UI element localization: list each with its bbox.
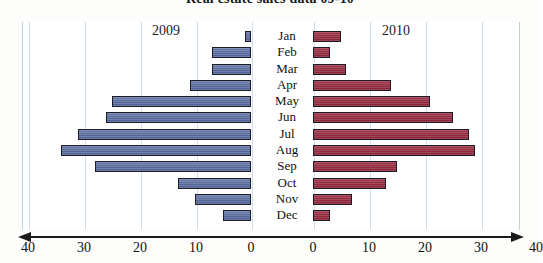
bar-2010 (313, 161, 397, 172)
bar-row: Jan (0, 30, 540, 45)
month-label: Apr (265, 77, 309, 92)
bar-row: Nov (0, 193, 540, 208)
axis-tick: 0 (310, 240, 317, 256)
axis-tick: 10 (189, 240, 203, 256)
bar-2009 (212, 47, 251, 58)
bar-2010 (313, 80, 391, 91)
month-label: May (265, 93, 309, 108)
axis-line (30, 236, 512, 238)
bar-row: Oct (0, 177, 540, 192)
bar-2009 (95, 161, 251, 172)
bar-row: Feb (0, 46, 540, 61)
month-label: Jun (265, 109, 309, 124)
month-label: Oct (265, 175, 309, 190)
bar-2010 (313, 64, 346, 75)
axis-tick: 30 (77, 240, 91, 256)
bar-row: Dec (0, 209, 540, 224)
axis-tick: 40 (21, 240, 35, 256)
bar-2009 (178, 178, 251, 189)
bar-2010 (313, 96, 430, 107)
axis-tick: 20 (133, 240, 147, 256)
axis-tick: 30 (474, 240, 488, 256)
axis-tick: 40 (529, 240, 543, 256)
month-label: Sep (265, 158, 309, 173)
bar-2010 (313, 145, 475, 156)
bar-rows: JanFebMarAprMayJunJulAugSepOctNovDec (0, 30, 540, 226)
bar-row: Jun (0, 111, 540, 126)
bar-2009 (245, 31, 251, 42)
bar-2010 (313, 47, 330, 58)
bar-row: Apr (0, 79, 540, 94)
month-label: Nov (265, 191, 309, 206)
month-label: Jan (265, 28, 309, 43)
bar-2009 (223, 210, 251, 221)
bar-2010 (313, 194, 352, 205)
bar-2009 (190, 80, 251, 91)
month-label: Mar (265, 61, 309, 76)
bar-2009 (78, 129, 251, 140)
month-label: Feb (265, 44, 309, 59)
month-label: Dec (265, 207, 309, 222)
bar-row: May (0, 95, 540, 110)
axis-tick: 20 (418, 240, 432, 256)
bar-2009 (61, 145, 251, 156)
month-label: Jul (265, 126, 309, 141)
axis-tick: 10 (362, 240, 376, 256)
bar-2009 (112, 96, 252, 107)
chart-title: Real estate sales data 09-10 (0, 0, 540, 7)
x-axis (0, 236, 540, 238)
bar-row: Aug (0, 144, 540, 159)
bar-2010 (313, 129, 469, 140)
bar-row: Sep (0, 160, 540, 175)
bar-2010 (313, 178, 386, 189)
axis-tick-labels: 403020100010203040 (0, 240, 540, 260)
axis-tick: 0 (248, 240, 255, 256)
bar-2010 (313, 210, 330, 221)
bar-2009 (195, 194, 251, 205)
bar-row: Mar (0, 63, 540, 78)
bar-2009 (212, 64, 251, 75)
month-label: Aug (265, 142, 309, 157)
bar-2009 (106, 112, 251, 123)
bar-2010 (313, 112, 453, 123)
bar-row: Jul (0, 128, 540, 143)
bar-2010 (313, 31, 341, 42)
